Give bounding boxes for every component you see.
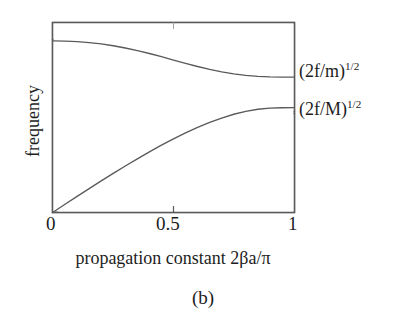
- x-tick-label-0.5: 0.5: [156, 214, 180, 233]
- acoustic-branch-label-base: (2f/M): [299, 99, 347, 119]
- optical-branch-label-exponent: 1/2: [345, 60, 359, 72]
- dispersion-plot: [0, 0, 406, 323]
- x-tick-label-0: 0: [46, 214, 56, 233]
- y-axis-title: frequency: [24, 45, 42, 197]
- optical-branch-label: (2f/m)1/2: [299, 62, 359, 80]
- x-axis-title: propagation constant 2βa/π: [0, 249, 346, 269]
- acoustic-branch-label-exponent: 1/2: [347, 98, 361, 110]
- acoustic-branch-curve: [53, 112, 295, 213]
- figure-panel-b: 0 0.5 1 propagation constant 2βa/π frequ…: [0, 0, 406, 323]
- optical-branch-label-base: (2f/m): [299, 61, 345, 81]
- figure-caption: (b): [0, 288, 406, 307]
- x-tick-label-1: 1: [288, 214, 298, 233]
- optical-branch-curve: [53, 40, 295, 114]
- acoustic-branch-label: (2f/M)1/2: [299, 100, 361, 118]
